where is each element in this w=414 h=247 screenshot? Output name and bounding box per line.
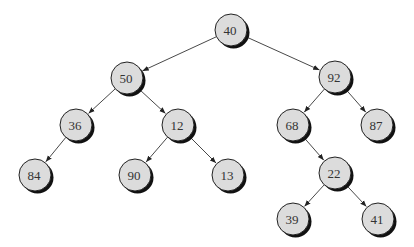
node-label: 87: [370, 118, 384, 133]
edges-layer: [46, 37, 367, 207]
edge-50-to-12: [139, 89, 166, 114]
binary-tree-diagram: 40509236126887849013223941: [0, 0, 414, 247]
edge-92-to-87: [346, 89, 366, 112]
nodes-layer: 40509236126887849013223941: [19, 14, 397, 238]
node-label: 36: [69, 118, 83, 133]
edge-92-to-68: [304, 89, 324, 112]
node-label: 13: [221, 168, 234, 183]
tree-node-13: 13: [212, 159, 247, 194]
tree-node-12: 12: [162, 109, 197, 144]
edge-12-to-90: [146, 137, 167, 162]
node-label: 39: [286, 212, 299, 227]
tree-node-92: 92: [319, 61, 354, 96]
tree-node-22: 22: [319, 157, 354, 192]
node-label: 90: [128, 168, 141, 183]
edge-68-to-22: [304, 137, 324, 160]
tree-node-84: 84: [19, 159, 54, 194]
edge-40-to-92: [246, 37, 320, 70]
edge-40-to-50: [142, 37, 216, 71]
edge-36-to-84: [46, 137, 66, 161]
node-label: 22: [328, 166, 341, 181]
edge-12-to-13: [189, 136, 216, 163]
node-label: 12: [171, 118, 184, 133]
edge-22-to-41: [346, 185, 366, 207]
tree-node-40: 40: [215, 14, 250, 49]
tree-node-50: 50: [111, 62, 146, 97]
edge-22-to-39: [304, 185, 324, 207]
node-label: 41: [371, 212, 384, 227]
node-label: 92: [328, 70, 341, 85]
edge-50-to-36: [89, 89, 116, 114]
tree-node-68: 68: [277, 109, 312, 144]
node-label: 40: [224, 23, 237, 38]
tree-node-87: 87: [361, 109, 396, 144]
node-label: 84: [28, 168, 42, 183]
node-label: 68: [286, 118, 299, 133]
node-label: 50: [120, 71, 133, 86]
tree-node-90: 90: [119, 159, 154, 194]
tree-node-39: 39: [277, 203, 312, 238]
tree-node-41: 41: [362, 203, 397, 238]
